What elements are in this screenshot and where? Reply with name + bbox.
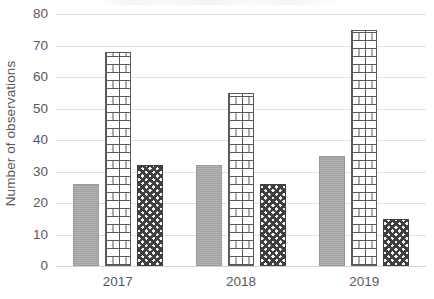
y-axis-title: Number of observations [0,0,22,266]
bar [73,184,99,266]
bar [319,156,345,266]
bar [105,52,131,266]
y-axis-tick-label: 40 [33,133,48,147]
cropped-title-band [100,0,340,5]
bar [260,184,286,266]
y-axis-tick-label: 0 [40,259,48,273]
x-axis-tick-label: 2017 [56,272,179,296]
bar-group [56,14,179,266]
y-axis-tick-labels: 80706050403020100 [22,0,52,299]
bar-group [303,14,426,266]
y-axis-tick-label: 60 [33,70,48,84]
y-axis-tick-label: 10 [33,228,48,242]
bar [351,30,377,266]
bar [196,165,222,266]
y-axis-tick-label: 80 [33,7,48,21]
x-axis-tick-label: 2019 [303,272,426,296]
x-axis-tick-labels: 201720182019 [56,272,426,296]
axis-baseline [56,266,426,267]
y-axis-title-text: Number of observations [4,60,19,206]
bar-group [179,14,302,266]
plot-area [56,14,426,266]
y-axis-tick-label: 30 [33,165,48,179]
bar [383,219,409,266]
bar [228,93,254,266]
bar-groups [56,14,426,266]
y-axis-tick-label: 50 [33,102,48,116]
x-axis-tick-label: 2018 [179,272,302,296]
y-axis-tick-label: 20 [33,196,48,210]
y-axis-tick-label: 70 [33,39,48,53]
bar [137,165,163,266]
bar-chart: Number of observations 80706050403020100… [0,0,434,299]
